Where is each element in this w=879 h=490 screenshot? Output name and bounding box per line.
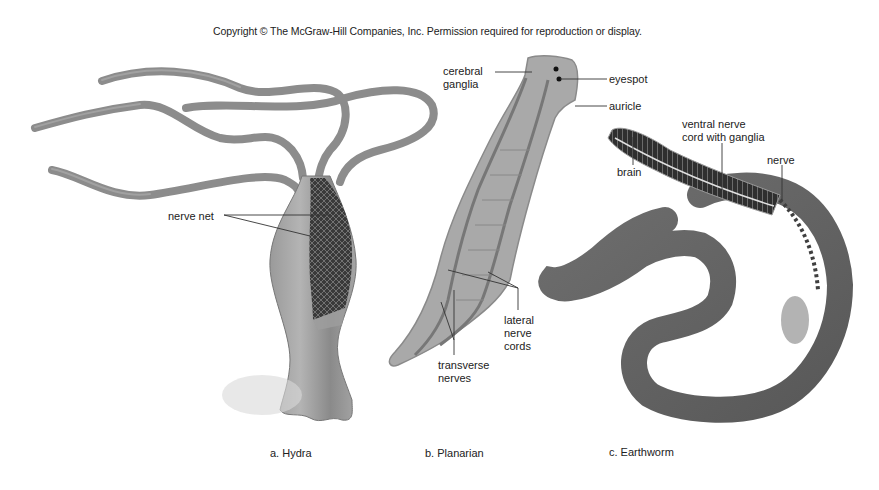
nervous-systems-illustration — [0, 0, 879, 490]
label-brain: brain — [617, 166, 641, 179]
label-transverse-line1: transverse — [438, 359, 489, 372]
label-nerve-net: nerve net — [168, 210, 214, 223]
label-transverse-nerves: transverse nerves — [438, 359, 489, 385]
label-ventral-line2: cord with ganglia — [682, 131, 765, 144]
caption-earthworm: c. Earthworm — [609, 446, 674, 458]
label-auricle: auricle — [609, 100, 641, 113]
label-eyespot: eyespot — [609, 73, 648, 86]
label-ventral-line1: ventral nerve — [682, 118, 765, 131]
label-transverse-line2: nerves — [438, 372, 489, 385]
earthworm-drawing — [551, 128, 840, 409]
hydra-drawing — [35, 70, 434, 420]
label-ventral-nerve-cord: ventral nerve cord with ganglia — [682, 118, 765, 144]
label-lateral-nerve-cords: lateral nerve cords — [504, 314, 534, 353]
caption-hydra: a. Hydra — [270, 447, 312, 459]
caption-planarian: b. Planarian — [425, 447, 484, 459]
label-lateral-line2: nerve — [504, 327, 534, 340]
label-nerve: nerve — [767, 154, 795, 167]
planarian-drawing — [389, 56, 577, 366]
label-cerebral-line1: cerebral — [443, 65, 483, 78]
label-lateral-line3: cords — [504, 340, 534, 353]
label-cerebral-line2: ganglia — [443, 78, 483, 91]
label-cerebral-ganglia: cerebral ganglia — [443, 65, 483, 91]
label-lateral-line1: lateral — [504, 314, 534, 327]
